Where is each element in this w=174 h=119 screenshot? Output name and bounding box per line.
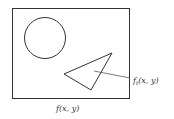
triangle-object	[64, 53, 112, 90]
target-label: ft(x, y)	[132, 76, 159, 86]
diagram-canvas: ft(x, y) f(x, y)	[0, 0, 174, 119]
frame-label: f(x, y)	[55, 104, 79, 113]
circle-object	[25, 18, 66, 59]
